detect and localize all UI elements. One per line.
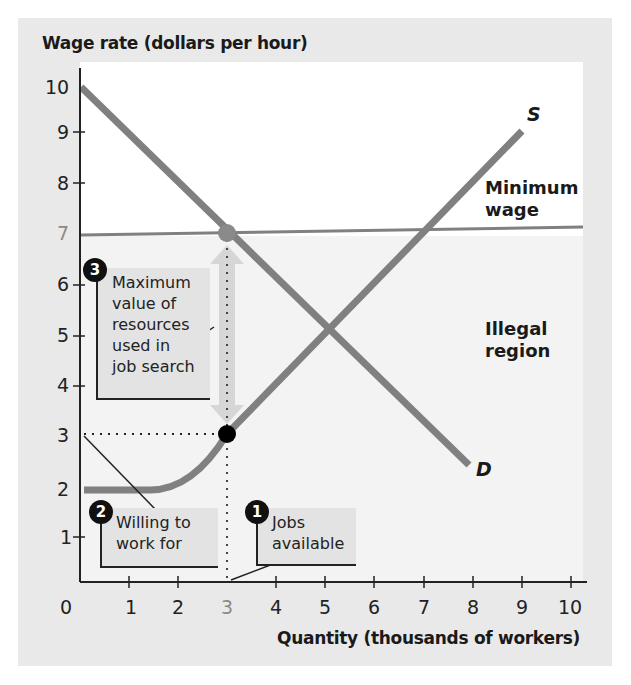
supply-label: S xyxy=(527,103,541,125)
y-tick-4: 4 xyxy=(57,374,69,396)
demand-label: D xyxy=(476,458,492,480)
x-tick-3: 3 xyxy=(221,596,233,618)
y-tick-8: 8 xyxy=(57,172,69,194)
y-tick-5: 5 xyxy=(57,324,69,346)
x-tick-10: 10 xyxy=(558,596,582,618)
minimum-wage-label: Minimum wage xyxy=(485,177,578,221)
badge-2: 2 xyxy=(89,500,113,524)
y-tick-1: 1 xyxy=(60,526,72,548)
x-tick-5: 5 xyxy=(319,596,331,618)
y-tick-7: 7 xyxy=(57,222,69,244)
x-tick-7: 7 xyxy=(418,596,430,618)
x-tick-1: 1 xyxy=(125,596,137,618)
note-jobs-available: Jobs available xyxy=(256,508,356,566)
y-tick-10: 10 xyxy=(45,76,69,98)
x-axis-label: Quantity (thousands of workers) xyxy=(277,628,580,648)
x-tick-6: 6 xyxy=(368,596,380,618)
y-tick-6: 6 xyxy=(57,273,69,295)
y-tick-2: 2 xyxy=(57,478,69,500)
y-tick-3: 3 xyxy=(57,424,69,446)
x-tick-4: 4 xyxy=(270,596,282,618)
badge-3: 3 xyxy=(83,258,107,282)
note-max-job-search-value: Maximum value of resources used in job s… xyxy=(96,268,210,400)
x-tick-2: 2 xyxy=(172,596,184,618)
x-tick-9: 9 xyxy=(516,596,528,618)
y-tick-9: 9 xyxy=(57,121,69,143)
x-tick-0: 0 xyxy=(60,596,72,618)
x-tick-8: 8 xyxy=(467,596,479,618)
note-willing-to-work-for: Willing to work for xyxy=(100,508,218,568)
illegal-region-label: Illegal region xyxy=(485,318,550,362)
min-wage-demand-point xyxy=(218,224,236,242)
y-axis-label: Wage rate (dollars per hour) xyxy=(42,33,307,53)
badge-1: 1 xyxy=(245,500,269,524)
supply-point-at-3 xyxy=(218,425,236,443)
